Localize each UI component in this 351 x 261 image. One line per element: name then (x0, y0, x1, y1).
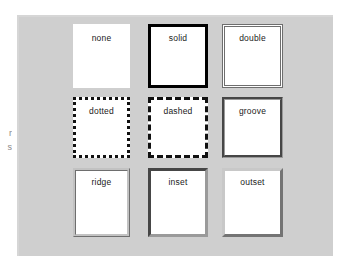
border-demo-box-dashed: dashed (148, 97, 208, 158)
border-demo-box-dotted: dotted (73, 97, 130, 158)
border-demo-label: groove (225, 106, 280, 116)
border-demo-box-ridge: ridge (73, 168, 130, 237)
border-demo-box-none: none (73, 24, 130, 88)
border-style-grid: nonesoliddoubledotteddashedgrooveridgein… (17, 15, 333, 256)
border-demo-box-groove: groove (222, 97, 283, 158)
border-demo-label: solid (151, 33, 205, 43)
border-demo-label: inset (151, 177, 205, 187)
border-demo-label: double (225, 33, 280, 43)
caption-fragment-column: r s (0, 126, 12, 160)
border-demo-label: none (76, 33, 127, 43)
border-demo-label: outset (225, 177, 280, 187)
caption-fragment-line-1: r (0, 126, 12, 140)
border-demo-box-solid: solid (148, 24, 208, 88)
border-demo-box-double: double (222, 24, 283, 88)
border-demo-label: ridge (76, 177, 127, 187)
border-demo-label: dashed (151, 106, 205, 116)
figure-panel: nonesoliddoubledotteddashedgrooveridgein… (17, 15, 333, 256)
border-demo-box-outset: outset (222, 168, 283, 237)
border-demo-box-inset: inset (148, 168, 208, 237)
border-demo-label: dotted (76, 106, 127, 116)
caption-fragment-line-2: s (0, 140, 12, 154)
